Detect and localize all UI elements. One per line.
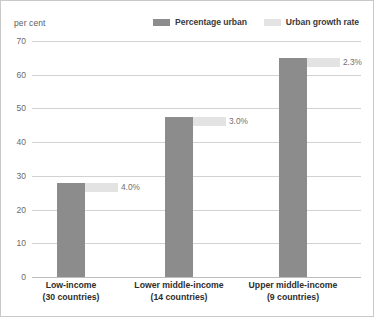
legend-swatch-urban-growth-rate [264, 19, 281, 26]
gridline-70 [32, 41, 361, 42]
gridline-30 [32, 176, 361, 177]
legend-item-percentage-urban: Percentage urban [153, 17, 247, 27]
plot-area: 7060504030201004.0%3.0%2.3% [32, 41, 361, 277]
y-axis-unit-label: per cent [14, 18, 46, 28]
bar-percentage-urban-2[interactable] [165, 117, 193, 277]
bar-urban-growth-rate-1[interactable] [85, 183, 118, 192]
y-axis-tick-20: 20 [17, 205, 26, 215]
legend-item-urban-growth-rate: Urban growth rate [264, 17, 359, 27]
gridline-60 [32, 75, 361, 76]
y-axis-tick-10: 10 [17, 238, 26, 248]
data-label-urban-growth-rate-2: 3.0% [229, 116, 248, 126]
data-label-urban-growth-rate-1: 4.0% [121, 182, 140, 192]
bar-urban-growth-rate-2[interactable] [193, 117, 226, 126]
gridline-40 [32, 142, 361, 143]
bar-urban-growth-rate-3[interactable] [307, 58, 340, 67]
category-label-name-3: Upper middle-income [249, 280, 338, 290]
gridline-0 [32, 277, 361, 278]
y-axis-tick-40: 40 [17, 137, 26, 147]
bar-percentage-urban-3[interactable] [279, 58, 307, 277]
category-axis-labels: Low-income(30 countries)Lower middle-inc… [32, 280, 361, 314]
y-axis-tick-50: 50 [17, 103, 26, 113]
legend-label-urban-growth-rate: Urban growth rate [286, 17, 359, 27]
category-label-count-3: (9 countries) [223, 292, 363, 304]
category-label-name-2: Lower middle-income [134, 280, 223, 290]
y-axis-tick-60: 60 [17, 70, 26, 80]
legend-swatch-percentage-urban [153, 19, 170, 26]
bar-chart: per cent Percentage urban Urban growth r… [0, 0, 374, 317]
chart-legend: Percentage urban Urban growth rate [153, 17, 359, 27]
category-label-3: Upper middle-income(9 countries) [223, 280, 363, 303]
data-label-urban-growth-rate-3: 2.3% [343, 57, 362, 67]
gridline-50 [32, 108, 361, 109]
legend-label-percentage-urban: Percentage urban [175, 17, 247, 27]
category-label-name-1: Low-income [46, 280, 97, 290]
y-axis-tick-70: 70 [17, 36, 26, 46]
y-axis-tick-30: 30 [17, 171, 26, 181]
bar-percentage-urban-1[interactable] [57, 183, 85, 277]
